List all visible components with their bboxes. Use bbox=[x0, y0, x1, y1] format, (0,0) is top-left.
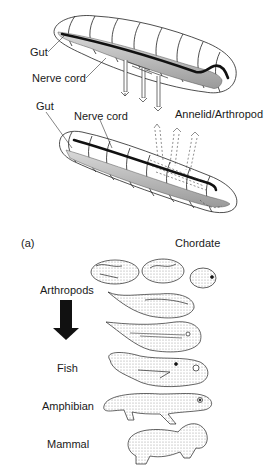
embryo-mammal bbox=[128, 424, 207, 464]
row-label-fish: Fish bbox=[57, 362, 78, 374]
nerve-cord-label-annelid: Nerve cord bbox=[32, 72, 86, 84]
figure-canvas: Gut Nerve cord Annelid/Arthropod Gut Ner… bbox=[0, 0, 279, 475]
chordate-title: Chordate bbox=[175, 237, 220, 249]
down-arrow-icon bbox=[53, 300, 79, 340]
gut-label-chordate: Gut bbox=[36, 100, 54, 112]
embryo-sequence bbox=[91, 259, 216, 464]
row-label-mammal: Mammal bbox=[47, 438, 89, 450]
chordate-body bbox=[60, 131, 237, 212]
nerve-cord-label-chordate: Nerve cord bbox=[74, 110, 128, 122]
row-label-amphibian: Amphibian bbox=[42, 400, 94, 412]
embryo-fish bbox=[109, 353, 208, 387]
gut-label-annelid: Gut bbox=[30, 46, 48, 58]
ghost-leg-feet bbox=[154, 124, 199, 136]
annelid-arthropod-title: Annelid/Arthropod bbox=[175, 108, 263, 120]
embryo-arthropod-2 bbox=[142, 259, 184, 283]
row-label-arthropods: Arthropods bbox=[40, 284, 94, 296]
embryo-elongated bbox=[108, 292, 194, 318]
embryo-amphibian bbox=[104, 394, 212, 425]
embryo-arthropod-1 bbox=[91, 260, 139, 284]
panel-label: (a) bbox=[21, 237, 34, 249]
